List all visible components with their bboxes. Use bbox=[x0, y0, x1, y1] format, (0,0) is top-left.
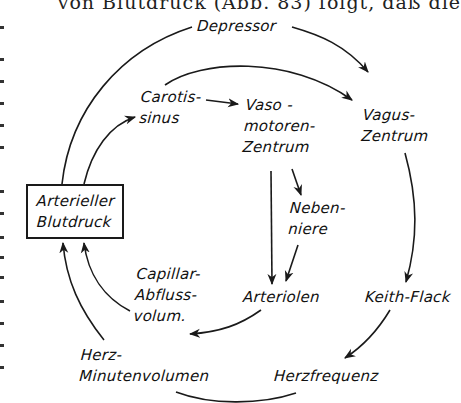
node-carotissinus: Carotis- sinus bbox=[139, 87, 203, 129]
node-vasomotoren-zentrum: Vaso - motoren- Zentrum bbox=[242, 95, 318, 158]
arrow-minutenvolumen-to-blutdruck bbox=[63, 243, 104, 340]
arrow-arteriolen-to-capillar bbox=[190, 310, 261, 334]
arrow-capillar-to-blutdruck bbox=[84, 243, 130, 311]
arrow-keith-to-herzfrequenz bbox=[345, 310, 390, 358]
node-arterieller-blutdruck-box: Arterieller Blutdruck bbox=[26, 184, 124, 239]
node-depressor: Depressor bbox=[196, 16, 277, 37]
arc-herzfrequenz-to-minutenvolumen bbox=[176, 392, 296, 402]
arrow-vaso-to-arteriolen bbox=[271, 171, 272, 284]
arrow-nebenniere-to-arteriolen bbox=[286, 245, 298, 281]
arrow-depressor-to-vagus bbox=[292, 27, 368, 72]
node-arterieller-blutdruck: Arterieller Blutdruck bbox=[27, 191, 124, 233]
node-capillar-abflussvolum: Capillar- Abfluss- volum. bbox=[133, 264, 202, 327]
arrow-carotis-to-vaso bbox=[206, 100, 238, 104]
node-herzfrequenz: Herzfrequenz bbox=[273, 366, 379, 387]
node-vagus-zentrum: Vagus- Zentrum bbox=[361, 105, 431, 147]
node-nebenniere: Neben- niere bbox=[288, 198, 347, 240]
arrow-blutdruck-to-carotis bbox=[84, 117, 135, 184]
node-arteriolen: Arteriolen bbox=[242, 287, 320, 308]
arrow-vaso-to-nebenniere bbox=[292, 169, 301, 195]
node-herz-minutenvolumen: Herz- Minutenvolumen bbox=[79, 345, 212, 387]
arrow-vagus-to-keith bbox=[405, 153, 415, 282]
node-keith-flack: Keith-Flack bbox=[364, 287, 451, 308]
